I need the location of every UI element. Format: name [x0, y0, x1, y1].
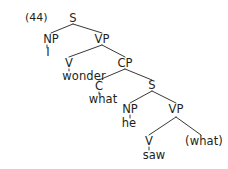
- terminal-i: I: [46, 47, 50, 59]
- node-np-subject: NP: [43, 34, 59, 46]
- terminal-saw: saw: [143, 150, 166, 162]
- syntax-tree-figure: (44) S NP I VP V wonder CP C what S NP h…: [0, 0, 228, 169]
- branch-vp2-trace: [176, 117, 201, 135]
- terminal-trace-what: (what): [185, 136, 223, 148]
- node-v-wonder: V: [65, 58, 73, 70]
- node-np-embedded-subject: NP: [122, 104, 138, 116]
- node-s-embedded: S: [148, 80, 155, 92]
- branch-vp1-v1: [69, 45, 102, 57]
- node-v-saw: V: [145, 136, 153, 148]
- node-c-complementizer: C: [95, 81, 103, 93]
- node-vp-matrix: VP: [94, 34, 109, 46]
- node-vp-embedded: VP: [168, 104, 183, 116]
- node-s-matrix: S: [69, 13, 76, 25]
- node-cp: CP: [117, 58, 132, 70]
- branch-vp2-v2: [149, 117, 176, 135]
- terminal-what: what: [89, 94, 118, 106]
- terminal-he: he: [122, 118, 137, 130]
